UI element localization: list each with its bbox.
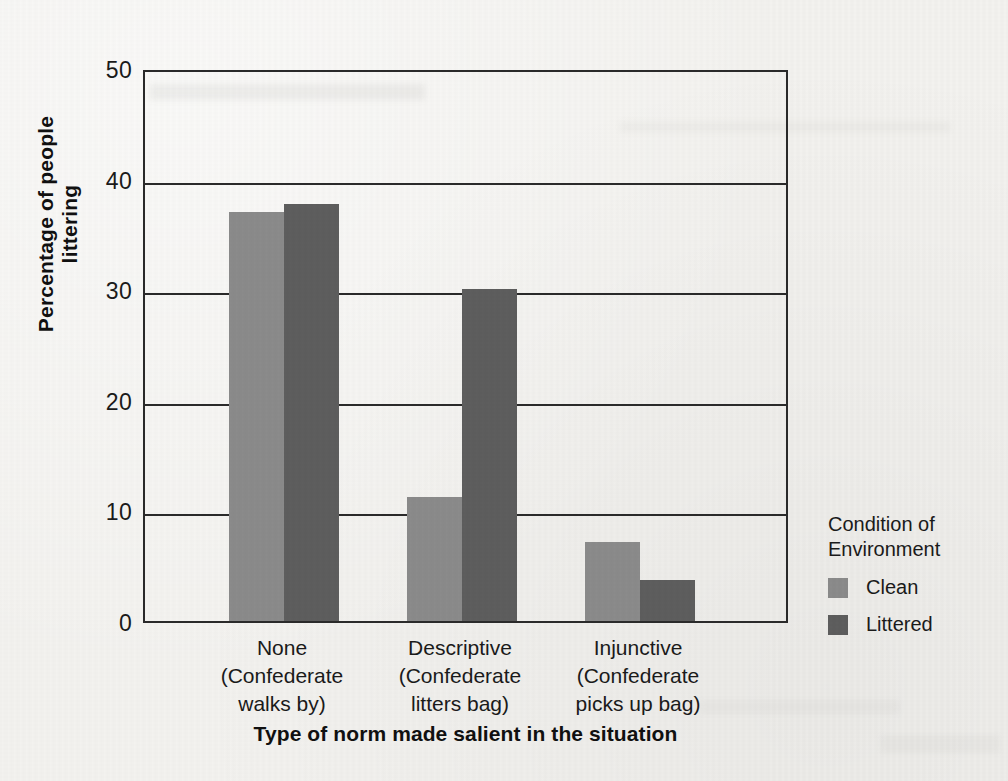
x-axis-category-label-3: Injunctive(Confederatepicks up bag): [528, 634, 748, 718]
legend-title-line-2: Environment: [828, 538, 940, 560]
bar-littered-3: [640, 580, 695, 621]
y-axis-title: Percentage of people littering: [34, 74, 82, 374]
legend-item-littered[interactable]: Littered: [828, 613, 1003, 636]
bar-clean-1: [229, 212, 284, 621]
y-axis-tick-label: 10: [86, 499, 132, 526]
legend-item-label: Clean: [866, 576, 918, 599]
y-axis-tick-label: 30: [86, 278, 132, 305]
y-axis-tick-labels: 50403020100: [82, 70, 132, 623]
chart-page: 50403020100 Percentage of people litteri…: [0, 0, 1008, 781]
bar-clean-2: [407, 497, 462, 621]
y-axis-tick-label: 20: [86, 388, 132, 415]
bar-littered-2: [462, 289, 517, 621]
legend-item-label: Littered: [866, 613, 933, 636]
gridline: [145, 183, 786, 185]
x-axis-category-label-line: picks up bag): [528, 690, 748, 718]
legend-swatch-icon: [828, 578, 848, 598]
y-axis-tick-label: 0: [86, 610, 132, 637]
legend: Condition of Environment CleanLittered: [828, 512, 1003, 650]
bar-clean-3: [585, 542, 640, 621]
legend-items: CleanLittered: [828, 576, 1003, 636]
x-axis-category-label-line: Injunctive: [528, 634, 748, 662]
legend-swatch-icon: [828, 615, 848, 635]
legend-title: Condition of Environment: [828, 512, 1003, 562]
y-axis-tick-label: 50: [86, 57, 132, 84]
plot-area: [143, 70, 788, 623]
scan-smudge: [880, 735, 1000, 753]
x-axis-title: Type of norm made salient in the situati…: [143, 722, 788, 746]
bar-littered-1: [284, 204, 339, 621]
legend-title-line-1: Condition of: [828, 513, 935, 535]
x-axis-category-label-line: (Confederate: [528, 662, 748, 690]
y-axis-tick-label: 40: [86, 167, 132, 194]
legend-item-clean[interactable]: Clean: [828, 576, 1003, 599]
